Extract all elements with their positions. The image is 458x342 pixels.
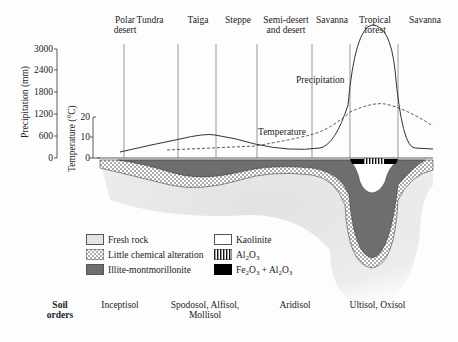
biome-savanna-1: Savanna [314,15,350,25]
precip-tick: 0 [22,153,53,163]
legend-label: Illite-montmorillonite [108,265,191,275]
dotted-swatch [86,249,104,260]
biome-tundra: Tundra [130,15,170,25]
biome-steppe: Steppe [220,15,256,25]
legend-kaolinite: Kaolinite [214,233,271,246]
biome-label: and desert [267,25,306,35]
legend-label: Fe2O3 + Al2O3 [236,265,292,275]
temp-axis-title: Temperature (°C) [67,105,77,172]
biome-label: Tropical [359,15,391,25]
black-swatch [214,264,232,275]
soil-order-ultisol-oxisol: Ultisol, Oxisol [340,300,415,310]
stripes-swatch [214,249,232,260]
biome-label: desert [114,25,137,35]
precipitation-label: Precipitation [296,75,345,85]
illite-swatch [86,264,104,275]
legend-little-alteration: Little chemical alteration [86,248,203,261]
temperature-axis [90,117,100,158]
biome-label: Semi-desert [263,15,308,25]
fresh-rock-swatch [86,234,104,245]
al2o3-region [364,158,384,164]
biome-taiga: Taiga [180,15,216,25]
temperature-label: Temperature [258,127,306,137]
precip-tick: 3000 [22,44,53,54]
legend-label: Little chemical alteration [108,250,203,260]
soil-order-spodosol: Spodosol, Alfisol,Mollisol [165,300,245,320]
precip-axis-title: Precipitation (mm) [20,66,30,138]
soil-orders-title: Soilorders [40,300,80,320]
legend-label: Fresh rock [108,235,148,245]
biome-label: forest [364,25,386,35]
biome-savanna-2: Savanna [400,15,450,25]
legend-fe2o3-al2o3: Fe2O3 + Al2O3 [214,263,292,276]
precipitation-axis [54,49,57,158]
legend-fresh-rock: Fresh rock [86,233,148,246]
soil-order-inceptisol: Inceptisol [95,300,145,310]
legend-label: Kaolinite [236,235,271,245]
legend-al2o3: Al2O3 [214,248,259,261]
kaolinite-swatch [214,234,232,245]
legend-label: Al2O3 [236,250,259,260]
biome-semi-desert: Semi-desertand desert [258,15,314,35]
legend-illite: Illite-montmorillonite [86,263,191,276]
soil-order-aridisol: Aridisol [275,300,315,310]
biome-dividers [124,44,398,158]
biome-tropical-forest: Tropicalforest [352,15,398,35]
